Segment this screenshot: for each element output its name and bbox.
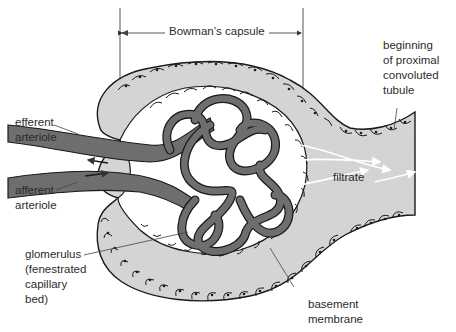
basement-membrane-label: basement membrane bbox=[308, 297, 363, 327]
bowmans-capsule-label: Bowman’s capsule bbox=[165, 25, 269, 37]
glomerulus-label: glomerulus (fenestrated capillary bed) bbox=[25, 247, 86, 307]
proximal-tubule-label: beginning of proximal convoluted tubule bbox=[383, 38, 439, 98]
filtrate-label: filtrate bbox=[333, 170, 364, 185]
efferent-arteriole-label: efferent arteriole bbox=[15, 115, 57, 145]
afferent-arteriole-label: afferent arteriole bbox=[15, 183, 57, 213]
